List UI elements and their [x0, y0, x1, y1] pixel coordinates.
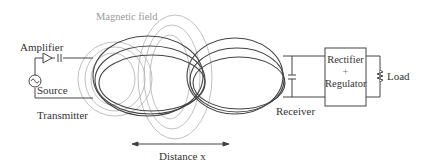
amplifier-label: Amplifier [20, 42, 63, 53]
receiver-label: Receiver [276, 106, 315, 117]
magnetic-field-lines [78, 15, 212, 139]
receiver-coil [187, 38, 285, 114]
regulator-text: Regulator [325, 78, 366, 90]
tx-capacitor-icon [55, 54, 63, 62]
rectifier-regulator-label: Rectifier + Regulator [325, 54, 366, 90]
amplifier-icon [43, 53, 52, 63]
magnetic-field-label: Magnetic field [96, 12, 158, 23]
source-label: Source [37, 85, 68, 96]
distance-arrow [132, 142, 229, 146]
plus-text: + [325, 66, 366, 78]
rectifier-text: Rectifier [325, 54, 366, 66]
load-resistor-icon [377, 70, 383, 82]
rx-capacitor-icon [288, 75, 296, 79]
distance-label: Distance x [159, 151, 206, 162]
transmitter-label: Transmitter [37, 110, 88, 121]
load-label: Load [387, 71, 410, 82]
